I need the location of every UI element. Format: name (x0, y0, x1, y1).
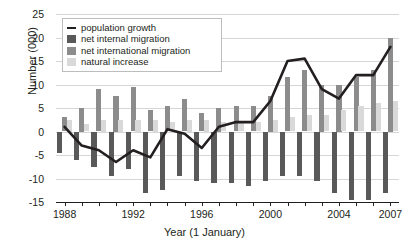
legend: population growthnet internal migrationn… (62, 18, 222, 72)
legend-line-icon (67, 24, 76, 32)
x-tick (219, 202, 220, 206)
x-tick-label: 2007 (379, 208, 402, 220)
x-tick (82, 202, 83, 206)
x-axis-line (56, 202, 399, 203)
legend-label: net international migration (81, 46, 190, 56)
legend-item: net international migration (67, 45, 216, 57)
y-tick-label: 10 (18, 79, 44, 91)
y-tick-label: -15 (18, 196, 44, 208)
legend-swatch-icon (67, 58, 76, 66)
x-tick (150, 202, 151, 206)
x-tick-label: 1996 (190, 208, 213, 220)
legend-label: natural increase (81, 57, 149, 67)
x-tick (270, 202, 271, 206)
x-tick (133, 202, 134, 206)
legend-item: population growth (67, 22, 216, 34)
x-tick (202, 202, 203, 206)
y-tick-label: -5 (18, 149, 44, 161)
y-tick-label: 25 (18, 8, 44, 20)
x-tick (236, 202, 237, 206)
legend-item: net internal migration (67, 34, 216, 46)
legend-label: net internal migration (81, 34, 170, 44)
x-tick (288, 202, 289, 206)
y-axis-tick-labels: 2520151050-5-10-15 (12, 0, 44, 250)
x-tick (305, 202, 306, 206)
x-tick (185, 202, 186, 206)
x-tick (167, 202, 168, 206)
x-tick-label: 1988 (53, 208, 76, 220)
x-tick (116, 202, 117, 206)
x-tick (65, 202, 66, 206)
x-tick (390, 202, 391, 206)
x-tick (99, 202, 100, 206)
x-tick-label: 1992 (121, 208, 144, 220)
x-axis-title: Year (1 January) (0, 226, 409, 238)
x-tick-label: 2004 (327, 208, 350, 220)
y-tick-label: -10 (18, 173, 44, 185)
x-tick (356, 202, 357, 206)
y-tick-label: 15 (18, 55, 44, 67)
y-tick-label: 5 (18, 102, 44, 114)
x-tick (339, 202, 340, 206)
x-tick (322, 202, 323, 206)
legend-item: natural increase (67, 57, 216, 69)
legend-swatch-icon (67, 35, 76, 43)
y-tick-label: 0 (18, 126, 44, 138)
x-tick (253, 202, 254, 206)
y-tick-label: 20 (18, 32, 44, 44)
legend-label: population growth (81, 23, 156, 33)
chart-container: Number (000) 2520151050-5-10-15 19881992… (0, 0, 409, 250)
legend-swatch-icon (67, 47, 76, 55)
x-tick-label: 2000 (259, 208, 282, 220)
x-tick (373, 202, 374, 206)
